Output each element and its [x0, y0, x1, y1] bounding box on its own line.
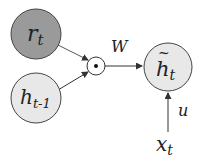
edge-r-to-mult: [58, 45, 88, 60]
hadamard-dot-icon: [94, 64, 98, 68]
node-x-subscript: t: [167, 142, 173, 158]
diagram-canvas: rt ht-1 ~ ht W u xt: [0, 0, 206, 161]
node-hprev-label: h: [20, 85, 33, 109]
node-mult: [87, 57, 105, 75]
gru-candidate-diagram: rt ht-1 ~ ht W u xt: [0, 0, 206, 161]
node-hprev: ht-1: [11, 73, 61, 123]
node-htilde-subscript: t: [170, 67, 176, 83]
node-r: rt: [11, 9, 61, 59]
node-htilde-label: h: [156, 57, 170, 81]
node-r-subscript: t: [38, 31, 45, 49]
edge-hprev-to-mult: [58, 72, 88, 90]
node-x: xt: [156, 132, 173, 158]
edge-label-W: W: [111, 37, 129, 56]
node-x-label: x: [156, 132, 167, 156]
node-hprev-subscript: t-1: [33, 96, 51, 111]
edge-label-u: u: [178, 101, 188, 120]
node-htilde: ~ ht: [144, 43, 192, 91]
